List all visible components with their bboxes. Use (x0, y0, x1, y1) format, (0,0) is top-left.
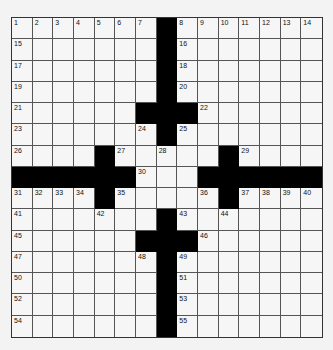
grid-cell[interactable] (198, 124, 219, 145)
grid-cell[interactable] (198, 82, 219, 103)
grid-cell[interactable] (239, 61, 260, 82)
grid-cell[interactable] (219, 316, 240, 337)
grid-cell[interactable] (281, 103, 302, 124)
grid-cell[interactable] (115, 252, 136, 273)
grid-cell[interactable]: 30 (136, 167, 157, 188)
grid-cell[interactable] (260, 82, 281, 103)
grid-cell[interactable]: 22 (198, 103, 219, 124)
grid-cell[interactable] (301, 39, 322, 60)
grid-cell[interactable] (115, 82, 136, 103)
grid-cell[interactable] (33, 252, 54, 273)
grid-cell[interactable]: 3 (53, 18, 74, 39)
grid-cell[interactable] (74, 273, 95, 294)
grid-cell[interactable]: 11 (239, 18, 260, 39)
grid-cell[interactable] (53, 252, 74, 273)
grid-cell[interactable]: 6 (115, 18, 136, 39)
grid-cell[interactable]: 52 (12, 294, 33, 315)
grid-cell[interactable]: 19 (12, 82, 33, 103)
grid-cell[interactable] (301, 231, 322, 252)
grid-cell[interactable] (53, 124, 74, 145)
grid-cell[interactable] (33, 316, 54, 337)
grid-cell[interactable]: 55 (177, 316, 198, 337)
grid-cell[interactable] (74, 82, 95, 103)
grid-cell[interactable]: 1 (12, 18, 33, 39)
grid-cell[interactable] (74, 103, 95, 124)
grid-cell[interactable]: 7 (136, 18, 157, 39)
grid-cell[interactable]: 36 (198, 188, 219, 209)
grid-cell[interactable] (74, 231, 95, 252)
grid-cell[interactable] (301, 61, 322, 82)
grid-cell[interactable] (198, 39, 219, 60)
grid-cell[interactable] (281, 146, 302, 167)
grid-cell[interactable] (260, 124, 281, 145)
grid-cell[interactable]: 13 (281, 18, 302, 39)
grid-cell[interactable] (53, 209, 74, 230)
grid-cell[interactable]: 8 (177, 18, 198, 39)
grid-cell[interactable] (115, 61, 136, 82)
grid-cell[interactable] (219, 273, 240, 294)
grid-cell[interactable] (33, 273, 54, 294)
grid-cell[interactable] (95, 61, 116, 82)
grid-cell[interactable] (260, 316, 281, 337)
grid-cell[interactable]: 38 (260, 188, 281, 209)
grid-cell[interactable]: 41 (12, 209, 33, 230)
grid-cell[interactable]: 46 (198, 231, 219, 252)
grid-cell[interactable]: 21 (12, 103, 33, 124)
grid-cell[interactable] (239, 82, 260, 103)
grid-cell[interactable] (95, 82, 116, 103)
grid-cell[interactable]: 44 (219, 209, 240, 230)
grid-cell[interactable] (301, 294, 322, 315)
grid-cell[interactable]: 9 (198, 18, 219, 39)
grid-cell[interactable] (136, 82, 157, 103)
grid-cell[interactable] (136, 61, 157, 82)
grid-cell[interactable] (198, 273, 219, 294)
grid-cell[interactable] (33, 124, 54, 145)
grid-cell[interactable] (115, 294, 136, 315)
grid-cell[interactable] (95, 231, 116, 252)
grid-cell[interactable] (239, 273, 260, 294)
grid-cell[interactable] (53, 294, 74, 315)
grid-cell[interactable] (239, 209, 260, 230)
grid-cell[interactable]: 23 (12, 124, 33, 145)
grid-cell[interactable] (33, 82, 54, 103)
grid-cell[interactable]: 42 (95, 209, 116, 230)
grid-cell[interactable] (115, 273, 136, 294)
grid-cell[interactable] (136, 294, 157, 315)
grid-cell[interactable] (198, 294, 219, 315)
grid-cell[interactable] (53, 273, 74, 294)
grid-cell[interactable] (115, 316, 136, 337)
grid-cell[interactable]: 15 (12, 39, 33, 60)
grid-cell[interactable] (33, 231, 54, 252)
grid-cell[interactable]: 35 (115, 188, 136, 209)
grid-cell[interactable] (177, 188, 198, 209)
grid-cell[interactable] (260, 273, 281, 294)
grid-cell[interactable] (33, 209, 54, 230)
grid-cell[interactable]: 45 (12, 231, 33, 252)
grid-cell[interactable]: 26 (12, 146, 33, 167)
grid-cell[interactable] (301, 146, 322, 167)
grid-cell[interactable] (219, 39, 240, 60)
grid-cell[interactable] (239, 39, 260, 60)
grid-cell[interactable] (219, 124, 240, 145)
grid-cell[interactable]: 5 (95, 18, 116, 39)
grid-cell[interactable] (239, 231, 260, 252)
grid-cell[interactable]: 34 (74, 188, 95, 209)
grid-cell[interactable] (95, 39, 116, 60)
grid-cell[interactable] (33, 103, 54, 124)
grid-cell[interactable] (74, 61, 95, 82)
grid-cell[interactable] (281, 82, 302, 103)
grid-cell[interactable] (260, 61, 281, 82)
grid-cell[interactable]: 14 (301, 18, 322, 39)
grid-cell[interactable] (74, 294, 95, 315)
grid-cell[interactable] (74, 209, 95, 230)
grid-cell[interactable]: 31 (12, 188, 33, 209)
grid-cell[interactable] (281, 294, 302, 315)
grid-cell[interactable] (115, 231, 136, 252)
grid-cell[interactable] (281, 124, 302, 145)
grid-cell[interactable]: 48 (136, 252, 157, 273)
grid-cell[interactable] (219, 252, 240, 273)
grid-cell[interactable]: 12 (260, 18, 281, 39)
grid-cell[interactable] (157, 167, 178, 188)
grid-cell[interactable] (95, 273, 116, 294)
grid-cell[interactable] (239, 316, 260, 337)
